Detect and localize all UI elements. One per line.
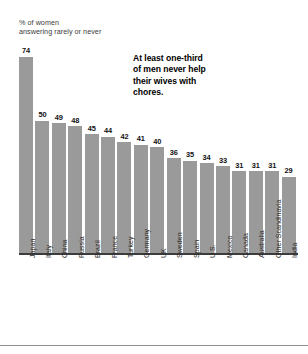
bar (35, 121, 49, 254)
bar-value-label: 35 (186, 150, 194, 159)
footer-divider (0, 345, 308, 346)
bar-slot: 41 (134, 45, 148, 254)
bar-slot: 50 (35, 45, 49, 254)
bar-value-label: 40 (153, 137, 161, 146)
bar-slot: 29 (282, 45, 296, 254)
x-axis-label: Brazil (94, 240, 101, 258)
bar-slot: 48 (68, 45, 82, 254)
x-axis-label: Mexico (226, 236, 233, 258)
chart-subtitle: % of women answering rarely or never (19, 18, 101, 37)
bar-value-label: 50 (38, 110, 46, 119)
bar-chart-figure: % of women answering rarely or never At … (0, 0, 308, 354)
x-axis-label: Australia (258, 230, 265, 258)
x-axis-label: Turkey (127, 237, 134, 258)
x-axis-label: Italy (45, 245, 52, 258)
bar (85, 134, 99, 254)
bar-slot: 35 (183, 45, 197, 254)
bar-slot: 45 (85, 45, 99, 254)
bar-slot: 31 (232, 45, 246, 254)
bar-value-label: 34 (203, 153, 211, 162)
x-axis-labels: JapanItalyChinaRussiaBrazilFranceTurkeyG… (19, 256, 298, 336)
x-axis-label: Russia (78, 236, 85, 258)
bar-slot: 44 (101, 45, 115, 254)
x-axis-label: Sweden (176, 232, 183, 258)
bar-slot: 31 (249, 45, 263, 254)
x-axis-label: U.S. (209, 244, 216, 258)
bar-value-label: 45 (88, 124, 96, 133)
bar-slot: 36 (167, 45, 181, 254)
bar (52, 123, 66, 254)
bar-value-label: 49 (55, 113, 63, 122)
bar-value-label: 42 (120, 132, 128, 141)
bar-value-label: 29 (285, 166, 293, 175)
bar-value-label: 31 (235, 161, 243, 170)
bar-slot: 40 (150, 45, 164, 254)
bar-value-label: 44 (104, 126, 112, 135)
bar-value-label: 31 (268, 161, 276, 170)
x-axis-label: UK (160, 248, 167, 258)
x-axis-label: Other Scandinavia (275, 200, 282, 258)
bar-slot: 42 (117, 45, 131, 254)
bar-value-label: 41 (137, 134, 145, 143)
bar-slot: 74 (19, 45, 33, 254)
x-axis-label: India (291, 243, 298, 258)
bar-slot: 33 (216, 45, 230, 254)
bar-value-label: 31 (252, 161, 260, 170)
bar-slot: 34 (200, 45, 214, 254)
bar-slot: 49 (52, 45, 66, 254)
bar-value-label: 74 (22, 46, 30, 55)
x-axis-label: Canada (242, 233, 249, 258)
bar-value-label: 36 (170, 148, 178, 157)
x-axis-label: Spain (193, 240, 200, 258)
bar-value-label: 33 (219, 156, 227, 165)
bar-value-label: 48 (71, 116, 79, 125)
bar (200, 163, 214, 254)
x-axis-label: France (111, 236, 118, 258)
x-axis-label: China (61, 239, 68, 258)
x-axis-label: Germany (143, 229, 150, 258)
bar (150, 147, 164, 254)
plot-area: 7450494845444241403635343331313129 (19, 45, 297, 254)
x-axis-label: Japan (29, 239, 36, 258)
bar (19, 57, 33, 254)
bar (68, 126, 82, 254)
